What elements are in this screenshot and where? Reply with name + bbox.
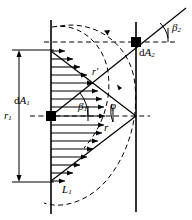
label-phi-symbol: φ — [110, 99, 116, 111]
ray-lines — [51, 8, 186, 181]
dashed-ellipse-arc — [44, 25, 136, 205]
label-L1-sub: 1 — [68, 188, 72, 196]
arrow-head — [96, 130, 102, 135]
label-L1: L1 — [62, 184, 72, 196]
label-beta1-sub: 1 — [83, 105, 87, 113]
label-r: r — [104, 122, 108, 133]
label-phi: φ — [110, 100, 116, 111]
radiation-view-factor-figure: dA1 dA2 r1 r r' L1 β1 β2 φ — [0, 0, 192, 220]
label-dA1: dA1 — [14, 95, 30, 107]
arrow-head — [92, 138, 98, 143]
label-dA1-sub: 1 — [26, 99, 30, 107]
label-dA2-sub: 2 — [151, 51, 155, 59]
dA1-marker — [46, 111, 56, 121]
ray-tick — [117, 84, 122, 90]
arrow-head — [98, 104, 104, 109]
arrow-head — [67, 170, 73, 175]
dashed-circle-arc — [52, 26, 109, 148]
figure-canvas — [0, 0, 192, 220]
label-beta2: β2 — [172, 22, 181, 34]
label-beta2-sub: 2 — [177, 26, 181, 34]
dashed-construction-curves — [44, 25, 136, 205]
arrow-head — [96, 96, 102, 101]
label-r-prime-mark: ' — [96, 66, 98, 77]
ray-direction-ticks — [104, 30, 122, 90]
label-dA2: dA2 — [139, 47, 155, 59]
dimension-arrow-up — [17, 50, 22, 57]
dimension-arrow-down — [17, 175, 22, 182]
label-r1: r1 — [4, 110, 12, 122]
arrow-head — [59, 48, 65, 53]
arrow-head — [67, 56, 73, 61]
label-r-symbol: r — [104, 121, 108, 133]
ray-dA1-to-dA2-extended — [51, 8, 186, 116]
arrow-head — [92, 88, 98, 93]
label-beta1: β1 — [78, 101, 87, 113]
dashed-reference-lines — [30, 42, 178, 116]
label-r-prime: r' — [92, 67, 98, 77]
label-r1-sub: 1 — [8, 114, 12, 122]
